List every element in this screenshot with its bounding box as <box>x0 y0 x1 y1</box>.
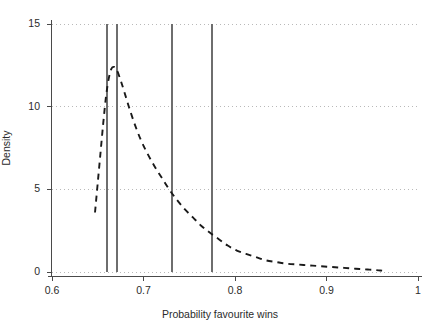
y-tick-label-5: 5 <box>8 183 40 194</box>
x-tick-label-0.8: 0.8 <box>210 285 260 296</box>
x-axis-title: Probability favourite wins <box>0 308 440 320</box>
density-curve-0 <box>95 67 387 271</box>
y-axis-title: Density <box>0 130 12 165</box>
y-tick-label-15: 15 <box>8 18 40 29</box>
density-chart-figure: 051015 0.60.70.80.91 Density Probability… <box>0 0 440 332</box>
reference-lines-group <box>107 24 212 272</box>
x-tick-label-0.9: 0.9 <box>302 285 352 296</box>
y-tick-label-10: 10 <box>8 101 40 112</box>
x-tick-label-1: 1 <box>393 285 440 296</box>
density-curve-group <box>95 67 387 271</box>
x-tick-label-0.7: 0.7 <box>119 285 169 296</box>
axes-group <box>47 20 423 281</box>
y-tick-label-0: 0 <box>8 266 40 277</box>
chart-svg <box>52 20 418 276</box>
x-tick-label-0.6: 0.6 <box>27 285 77 296</box>
plot-area <box>52 20 418 276</box>
